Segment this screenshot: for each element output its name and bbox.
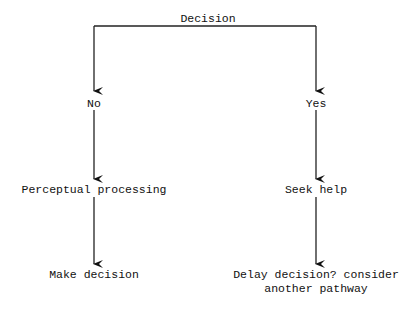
- decision-node: Decision: [180, 12, 235, 25]
- seek-help-node: Seek help: [285, 183, 347, 196]
- perceptual-processing-node: Perceptual processing: [22, 183, 167, 196]
- no-node: No: [87, 97, 101, 110]
- make-decision-node: Make decision: [49, 268, 139, 281]
- delay-decision-node-line2: another pathway: [264, 282, 368, 295]
- yes-node: Yes: [306, 97, 327, 110]
- delay-decision-node-line1: Delay decision? consider: [233, 268, 399, 281]
- flowchart-canvas: Decision No Yes Perceptual processing Se…: [0, 0, 416, 309]
- connector-lines: [0, 0, 416, 309]
